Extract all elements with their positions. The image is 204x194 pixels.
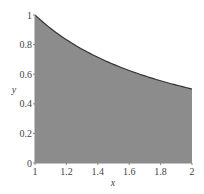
- y-axis-label: y: [11, 84, 17, 95]
- x-tick-label: 1: [33, 166, 38, 177]
- x-tick-label: 1.8: [154, 166, 167, 177]
- shaded-region: [35, 15, 192, 163]
- y-tick-label: 0.6: [20, 69, 33, 80]
- x-tick-label: 1.6: [123, 166, 136, 177]
- area-chart: 11.21.41.61.82 00.20.40.60.81 x y: [0, 0, 204, 194]
- x-tick-label: 1.2: [60, 166, 73, 177]
- y-tick-label: 0: [27, 158, 32, 169]
- y-tick-label: 0.4: [20, 98, 33, 109]
- y-axis-ticks: 00.20.40.60.81: [20, 10, 36, 169]
- area-under-curve: [35, 15, 192, 163]
- y-tick-label: 0.8: [20, 39, 33, 50]
- y-tick-label: 1: [27, 10, 32, 21]
- x-tick-label: 1.4: [92, 166, 105, 177]
- x-axis-label: x: [110, 177, 116, 188]
- y-tick-label: 0.2: [20, 128, 33, 139]
- x-axis-ticks: 11.21.41.61.82: [33, 163, 195, 177]
- x-tick-label: 2: [190, 166, 195, 177]
